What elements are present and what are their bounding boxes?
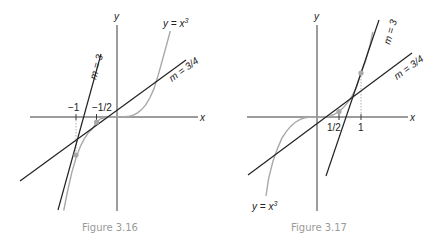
curve-label: y = x3	[162, 17, 188, 29]
figure-3-17: x y 1/2 1 y = x3 m = 3 m = 3/4 Figure 3.…	[247, 11, 426, 233]
tangent-point-1	[358, 70, 363, 75]
cubic-curve	[266, 32, 373, 196]
diagram-canvas: x y −1 −1/2 y = x3 m = 3 m = 3/4 Figure …	[0, 0, 441, 238]
tick-label-half: 1/2	[327, 122, 341, 133]
figure-caption: Figure 3.16	[82, 222, 138, 233]
tangent-point-neg-half	[94, 119, 99, 124]
y-axis-label: y	[113, 11, 120, 22]
tangent-line-m34	[20, 60, 186, 181]
tangent-label-m3: m = 3	[87, 53, 105, 81]
x-axis-label: x	[199, 112, 206, 123]
figure-caption: Figure 3.17	[291, 222, 347, 233]
curve-label: y = x3	[251, 200, 277, 212]
figure-3-16: x y −1 −1/2 y = x3 m = 3 m = 3/4 Figure …	[20, 11, 206, 233]
x-axis-label: x	[409, 112, 416, 123]
tangent-line-m34	[248, 53, 412, 175]
tick-label-neg-half: −1/2	[92, 102, 112, 113]
tick-label-neg-1: −1	[68, 102, 80, 113]
tick-label-1: 1	[358, 122, 364, 133]
tangent-label-m34: m = 3/4	[167, 55, 201, 84]
tangent-point-half	[336, 109, 341, 114]
tangent-point-neg-1	[73, 152, 78, 157]
tangent-label-m34: m = 3/4	[392, 53, 426, 82]
tangent-label-m3: m = 3	[381, 18, 399, 46]
y-axis-label: y	[313, 11, 320, 22]
